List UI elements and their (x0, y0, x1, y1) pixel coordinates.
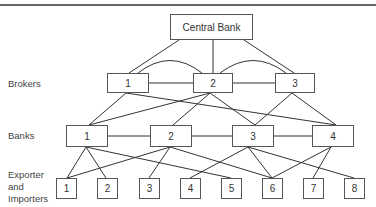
trader-label: 4 (188, 183, 194, 194)
bank-label: 1 (84, 131, 90, 142)
bank-node-4: 4 (312, 125, 354, 147)
trader-node-8: 8 (344, 178, 365, 199)
central-bank-label: Central Bank (183, 22, 241, 33)
traders-row-label: Exporter and Importers (8, 169, 48, 205)
trader-label: 7 (311, 183, 317, 194)
trader-node-1: 1 (56, 178, 77, 199)
broker-node-2: 2 (193, 73, 233, 93)
trader-node-7: 7 (303, 178, 324, 199)
trader-node-6: 6 (262, 178, 283, 199)
broker-label: 3 (292, 78, 298, 89)
trader-node-3: 3 (139, 178, 160, 199)
traders-label-line: Exporter (8, 169, 48, 181)
trader-label: 8 (352, 183, 358, 194)
bank-label: 3 (250, 131, 256, 142)
broker-node-1: 1 (107, 73, 149, 93)
traders-label-line: and (8, 181, 48, 193)
bank-node-2: 2 (150, 125, 192, 147)
brokers-row-label: Brokers (8, 78, 41, 90)
trader-node-5: 5 (221, 178, 242, 199)
trader-label: 5 (229, 183, 235, 194)
broker-label: 2 (210, 78, 216, 89)
bank-label: 4 (330, 131, 336, 142)
bank-node-1: 1 (66, 125, 108, 147)
banks-row-label: Banks (8, 130, 34, 142)
traders-label-line: Importers (8, 193, 48, 205)
trader-node-4: 4 (180, 178, 201, 199)
trader-label: 2 (105, 183, 111, 194)
central-bank-node: Central Bank (170, 14, 253, 40)
broker-label: 1 (125, 78, 131, 89)
broker-node-3: 3 (275, 73, 315, 93)
bank-label: 2 (168, 131, 174, 142)
bank-node-3: 3 (232, 125, 274, 147)
trader-label: 1 (64, 183, 70, 194)
trader-label: 3 (147, 183, 153, 194)
trader-label: 6 (270, 183, 276, 194)
trader-node-2: 2 (97, 178, 118, 199)
